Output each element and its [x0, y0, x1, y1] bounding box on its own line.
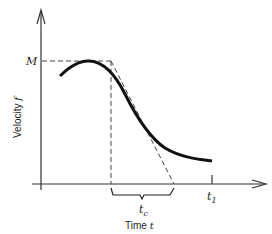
tc-label: tc: [139, 203, 148, 218]
velocity-curve: [60, 61, 212, 161]
max-label: M: [25, 55, 38, 68]
tc-brace: [111, 188, 174, 199]
velocity-time-diagram: M t1 tc Time t Velocity f: [0, 0, 272, 234]
y-axis-label: Velocity f: [12, 95, 23, 138]
x-axis-label: Time t: [125, 220, 155, 231]
t1-label: t1: [207, 190, 217, 205]
